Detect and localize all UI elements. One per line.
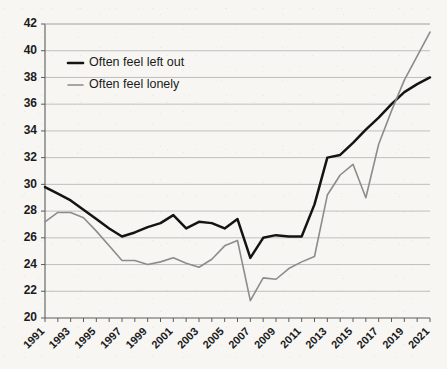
y-axis-label: 22 [24, 283, 38, 297]
x-axis-label: 1993 [46, 325, 72, 351]
x-axis-label: 2013 [303, 325, 329, 351]
y-axis-label: 26 [24, 230, 38, 244]
x-axis-label: 1997 [98, 325, 124, 351]
y-axis-label: 28 [24, 203, 38, 217]
x-axis-label: 2003 [175, 325, 201, 351]
x-axis-label: 1995 [72, 325, 98, 351]
x-axis-label: 2019 [380, 325, 406, 351]
x-axis-label: 2017 [354, 325, 380, 351]
y-axis-label: 38 [24, 70, 38, 84]
y-axis-label: 40 [24, 43, 38, 57]
y-axis-label: 34 [24, 123, 38, 137]
y-axis-label: 24 [24, 257, 38, 271]
x-axis-label: 2021 [406, 325, 432, 351]
y-axis-label: 20 [24, 310, 38, 324]
legend-label-0: Often feel left out [89, 55, 185, 69]
y-axis-label: 36 [24, 96, 38, 110]
y-axis-label: 32 [24, 150, 38, 164]
line-chart: 2022242628303234363840421991199319951997… [0, 0, 447, 369]
x-axis-label: 2011 [278, 325, 303, 350]
x-axis-label: 2015 [329, 325, 355, 351]
x-axis-label: 2001 [149, 325, 175, 351]
legend-label-1: Often feel lonely [89, 77, 180, 91]
y-axis-label: 30 [24, 177, 38, 191]
x-axis-label: 2005 [200, 325, 226, 351]
y-axis-label: 42 [24, 16, 38, 30]
x-axis-label: 1999 [123, 325, 149, 351]
chart-canvas: 2022242628303234363840421991199319951997… [0, 0, 447, 369]
x-axis-label: 2007 [226, 325, 252, 351]
series-line-often-feel-lonely [45, 32, 430, 301]
x-axis-label: 1991 [21, 325, 47, 351]
x-axis-label: 2009 [252, 325, 278, 351]
